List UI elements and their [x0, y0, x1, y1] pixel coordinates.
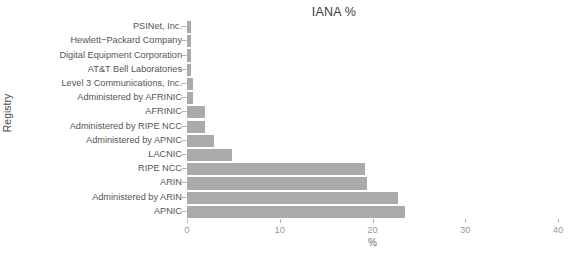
y-tick-label: RIPE NCC — [138, 165, 182, 174]
y-tick-mark: – — [181, 79, 186, 88]
y-tick-label: Administered by ARIN — [92, 193, 182, 202]
y-tick-label: Administered by RIPE NCC — [70, 122, 182, 131]
y-tick-mark: – — [181, 22, 186, 31]
bar — [187, 121, 205, 133]
y-tick-mark: – — [181, 108, 186, 117]
y-tick-mark: – — [181, 193, 186, 202]
bar-row: PSINet, Inc.– — [187, 20, 558, 34]
x-tick-mark — [280, 219, 281, 223]
bar — [187, 64, 191, 76]
bar — [187, 192, 398, 204]
y-tick-mark: – — [181, 94, 186, 103]
bar-row: LACNIC– — [187, 148, 558, 162]
x-tick-mark — [465, 219, 466, 223]
x-tick-label: 10 — [274, 224, 285, 235]
chart-title: IANA % — [0, 5, 583, 19]
bar-row: Level 3 Communications, Inc.– — [187, 77, 558, 91]
y-tick-label: AFRINIC — [145, 108, 182, 117]
bar — [187, 163, 365, 175]
bar-row: Administered by AFRINIC– — [187, 91, 558, 105]
y-tick-label: APNIC — [154, 207, 182, 216]
bar — [187, 49, 191, 61]
bar-row: AT&T Bell Laboratories– — [187, 63, 558, 77]
y-tick-label: ARIN — [160, 179, 182, 188]
bar-chart: IANA % Registry PSINet, Inc.–Hewlett−Pac… — [0, 0, 583, 261]
bar — [187, 177, 367, 189]
bar — [187, 92, 193, 104]
y-tick-label: PSINet, Inc. — [133, 22, 182, 31]
bar — [187, 106, 205, 118]
bar — [187, 135, 214, 147]
bar-row: Administered by RIPE NCC– — [187, 120, 558, 134]
y-tick-label: LACNIC — [148, 150, 182, 159]
bar-row: RIPE NCC– — [187, 162, 558, 176]
y-tick-label: Administered by APNIC — [86, 136, 182, 145]
bar-row: AFRINIC– — [187, 105, 558, 119]
y-tick-mark: – — [181, 51, 186, 60]
x-tick-label: 40 — [553, 224, 564, 235]
y-tick-mark: – — [181, 65, 186, 74]
y-tick-label: Digital Equipment Corporation — [59, 51, 182, 60]
y-tick-mark: – — [181, 179, 186, 188]
x-tick-mark — [373, 219, 374, 223]
y-tick-mark: – — [181, 136, 186, 145]
y-tick-mark: – — [181, 150, 186, 159]
y-tick-label: AT&T Bell Laboratories — [88, 65, 182, 74]
bar — [187, 149, 232, 161]
bar — [187, 21, 191, 33]
x-tick-mark — [187, 219, 188, 223]
y-tick-label: Level 3 Communications, Inc. — [61, 79, 182, 88]
bar-row: Administered by ARIN– — [187, 191, 558, 205]
plot-area: PSINet, Inc.–Hewlett−Packard Company–Dig… — [187, 20, 558, 219]
y-tick-mark: – — [181, 207, 186, 216]
bar-row: Hewlett−Packard Company– — [187, 34, 558, 48]
x-tick-label: 30 — [460, 224, 471, 235]
x-tick-label: 0 — [184, 224, 189, 235]
y-tick-mark: – — [181, 37, 186, 46]
y-tick-mark: – — [181, 165, 186, 174]
bar-row: ARIN– — [187, 176, 558, 190]
bar-row: Digital Equipment Corporation– — [187, 48, 558, 62]
bar-row: APNIC– — [187, 205, 558, 219]
bar — [187, 78, 193, 90]
x-tick-mark — [558, 219, 559, 223]
bar — [187, 206, 405, 218]
x-axis-title: % — [187, 237, 558, 248]
y-tick-mark: – — [181, 122, 186, 131]
bar-row: Administered by APNIC– — [187, 134, 558, 148]
y-tick-label: Hewlett−Packard Company — [70, 37, 182, 46]
x-axis: % 010203040 — [187, 219, 558, 259]
y-tick-label: Administered by AFRINIC — [77, 94, 182, 103]
bar — [187, 35, 191, 47]
x-tick-label: 20 — [367, 224, 378, 235]
y-axis-title: Registry — [1, 83, 13, 143]
